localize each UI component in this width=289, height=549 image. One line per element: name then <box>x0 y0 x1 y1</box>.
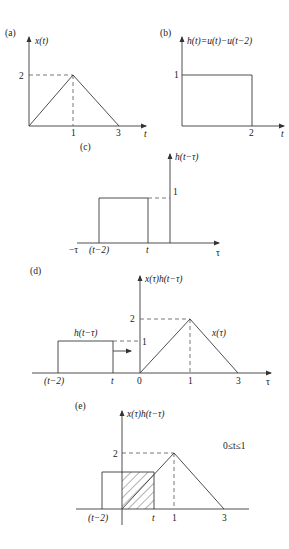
x-tick-0: 0 <box>137 376 142 386</box>
y-axis-label: x(τ)h(t−τ) <box>126 409 164 420</box>
panel-e-tag: (e) <box>75 401 86 412</box>
x-axis-label: t <box>281 129 284 139</box>
x-tick-2: 2 <box>249 128 254 138</box>
panel-c-tag: (c) <box>80 142 91 153</box>
panel-c: (c) h(t−τ) τ 1 −τ (t−2) t <box>69 142 220 258</box>
y-tick-1: 1 <box>174 70 179 80</box>
y-tick-2: 2 <box>19 71 24 81</box>
panel-b-tag: (b) <box>160 28 171 39</box>
panel-d: (d) x(τ)h(t−τ) τ h(t−τ) x(τ) 2 1 (t−2) t… <box>30 266 271 387</box>
y-tick-2: 2 <box>130 314 135 324</box>
x-axis-label: τ <box>216 248 220 258</box>
x-tick-3: 3 <box>222 513 227 523</box>
convolution-diagram: (a) x(t) t 2 1 3 (b) h(t)=u(t)−u(t−2) t … <box>0 0 289 549</box>
y-tick-1: 1 <box>173 187 178 197</box>
y-axis-label: x(t) <box>34 36 48 47</box>
x-tick-t: t <box>146 245 149 255</box>
x-axis-label: t <box>144 129 147 139</box>
panel-e: (e) x(τ)h(t−τ) 2 0≤t≤1 (t−2) t 1 3 <box>75 401 249 525</box>
y-axis-label: h(t)=u(t)−u(t−2) <box>187 36 252 47</box>
x-tick-t-minus-2: (t−2) <box>89 245 109 256</box>
x-tick-t-minus-2: (t−2) <box>44 376 64 387</box>
panel-b: (b) h(t)=u(t)−u(t−2) t 1 2 <box>160 28 284 139</box>
rect-pulse <box>182 75 252 126</box>
y-tick-2: 2 <box>113 449 118 459</box>
panel-d-tag: (d) <box>30 266 41 277</box>
shifted-pulse <box>58 341 113 373</box>
x-tick-t-minus-2: (t−2) <box>88 513 108 524</box>
x-tick-1: 1 <box>71 128 76 138</box>
y-tick-1: 1 <box>142 337 147 347</box>
y-axis-label: h(t−τ) <box>175 152 199 163</box>
flipped-pulse <box>99 198 148 243</box>
x-tick-3: 3 <box>116 128 121 138</box>
x-tick-1: 1 <box>172 513 177 523</box>
panel-a-tag: (a) <box>5 28 16 39</box>
h-label: h(t−τ) <box>74 328 98 339</box>
y-axis-label: x(τ)h(t−τ) <box>144 274 182 285</box>
x-tick-t: t <box>152 513 155 523</box>
x-axis-label: τ <box>266 377 270 387</box>
x-tick-t: t <box>111 376 114 386</box>
x-tick-neg-tau: −τ <box>69 245 78 255</box>
x-tick-1: 1 <box>188 376 193 386</box>
triangle-signal <box>29 75 119 126</box>
x-curve-label: x(τ) <box>211 328 226 339</box>
panel-a: (a) x(t) t 2 1 3 <box>5 28 147 139</box>
x-tick-3: 3 <box>236 376 241 386</box>
condition-label: 0≤t≤1 <box>223 441 246 451</box>
